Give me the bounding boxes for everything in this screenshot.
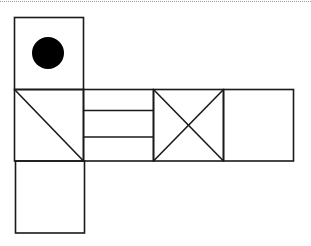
face-back: [224, 90, 294, 162]
filled-circle-icon: [32, 37, 64, 69]
face-left: [15, 90, 84, 162]
face-front: [84, 90, 154, 162]
diagonal-line: [15, 90, 84, 162]
cube-net-diagram: [0, 0, 311, 246]
face-right: [154, 90, 224, 162]
face-bottom: [16, 161, 85, 233]
face-top: [15, 18, 84, 90]
